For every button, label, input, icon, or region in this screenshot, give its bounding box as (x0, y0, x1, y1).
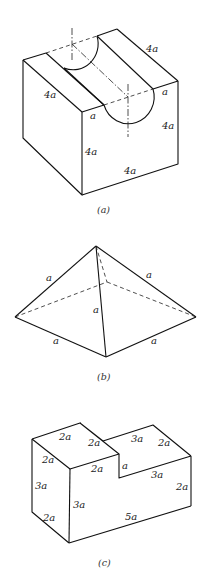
pyramid-base-back-right (107, 282, 196, 317)
groove-bottom-line (64, 68, 104, 105)
figure-a-grooved-cube: 4a 4a a a 4a 4a 4a (a) (23, 28, 178, 215)
label-a-right-vertical: 4a (161, 120, 174, 131)
label-a-left-top: 4a (43, 89, 56, 100)
pyramid-left-slant (15, 246, 96, 317)
top-left-edge (23, 60, 82, 112)
groove-right-edge (97, 36, 153, 89)
label-c-bottom-left-depth: 2a (42, 512, 55, 523)
caption-c: (c) (98, 557, 111, 568)
label-a-front-bottom: 4a (123, 165, 136, 176)
label-b-left-slant: a (46, 272, 52, 283)
front-groove-chord (104, 89, 153, 105)
label-a-top-back: 4a (145, 43, 158, 54)
caption-a: (a) (97, 204, 110, 215)
label-c-bottom-front: 5a (125, 511, 137, 522)
top-back-edge-right (97, 29, 117, 36)
figure-b-pyramid: a a a a a (b) (15, 246, 196, 382)
label-a-groove-right: a (162, 86, 168, 97)
label-c-step-back: 3a (131, 433, 143, 444)
label-a-groove-front: a (90, 110, 96, 121)
groove-axis (72, 44, 128, 97)
top-back-edge-left (23, 53, 46, 60)
label-b-base-left: a (53, 335, 59, 346)
figure-c-stepped-block: 2a 2a 2a 2a 3a 2a a 3a 2a 3a 3a 2a 5a (c… (32, 423, 191, 568)
pyramid-right-slant (96, 246, 196, 317)
back-groove-chord (46, 36, 97, 53)
label-a-front-vertical: 4a (84, 146, 97, 157)
pyramid-base-left (15, 317, 106, 357)
label-b-base-right: a (151, 335, 157, 346)
label-c-top-depth-left: 2a (41, 454, 54, 465)
label-c-top-back-left: 2a (58, 431, 71, 442)
label-c-top-front-step: 2a (90, 463, 103, 474)
label-c-front-vertical: 3a (73, 499, 85, 510)
label-b-right-slant: a (146, 269, 152, 280)
label-c-step-front: 3a (151, 469, 163, 480)
label-c-right-vertical: 2a (175, 481, 188, 492)
caption-b: (b) (97, 371, 111, 382)
figure-canvas: 4a 4a a a 4a 4a 4a (a) a a a a a (b) (0, 0, 208, 586)
label-c-right-top-depth: 2a (157, 437, 170, 448)
label-c-top-right: 2a (87, 437, 100, 448)
cube-left-face (23, 60, 82, 195)
label-c-step-height: a (122, 460, 128, 471)
front-groove-arc (104, 89, 154, 124)
top-right-edge (117, 29, 178, 81)
label-b-front-slant: a (93, 304, 99, 315)
label-c-left-vertical: 3a (35, 480, 47, 491)
block-front-vertical (69, 469, 70, 543)
